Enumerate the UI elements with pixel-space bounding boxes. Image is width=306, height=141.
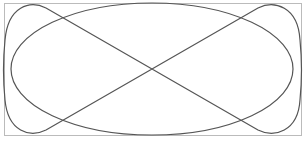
lissajous-figure <box>0 0 306 141</box>
